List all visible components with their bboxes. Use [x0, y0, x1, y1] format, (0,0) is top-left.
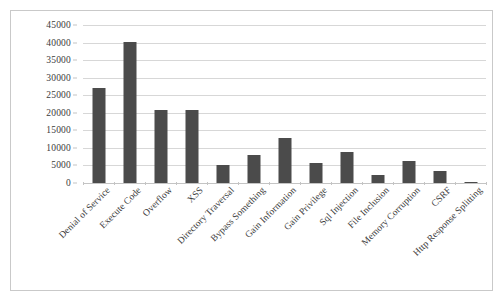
- y-axis-tick-mark: [73, 95, 77, 96]
- x-axis-tick-label: XSS: [185, 185, 205, 205]
- y-axis-tick-label: 35000: [46, 55, 71, 65]
- bar[interactable]: [278, 138, 291, 183]
- x-axis-tick-mark: [207, 182, 208, 185]
- y-axis-tick-mark: [73, 42, 77, 43]
- x-axis-tick-label: Bypass Something: [208, 185, 266, 243]
- bar-slot: [300, 25, 331, 183]
- x-axis-tick-mark: [486, 182, 487, 185]
- bar-slot: [331, 25, 362, 183]
- y-axis-tick-mark: [73, 112, 77, 113]
- x-axis-tick-label: Memory Corruption: [359, 185, 422, 248]
- y-axis-tick-label: 30000: [46, 73, 71, 83]
- x-axis-tick-mark: [269, 182, 270, 185]
- x-axis-tick-label: Denial of Service: [56, 185, 111, 240]
- y-axis-tick-label: 5000: [51, 160, 71, 170]
- bar[interactable]: [154, 110, 167, 183]
- bar[interactable]: [92, 88, 105, 183]
- bar[interactable]: [433, 171, 446, 183]
- x-axis-tick-mark: [145, 182, 146, 185]
- y-axis-tick-label: 40000: [46, 38, 71, 48]
- y-axis: 0500010000150002000025000300003500040000…: [11, 25, 77, 183]
- bar[interactable]: [247, 155, 260, 183]
- bar-slot: [114, 25, 145, 183]
- y-axis-tick-mark: [73, 183, 77, 184]
- y-axis-tick-label: 25000: [46, 90, 71, 100]
- x-axis-tick-label: CSRF: [429, 185, 453, 209]
- x-axis-tick-mark: [455, 182, 456, 185]
- bar[interactable]: [402, 161, 415, 183]
- gridline: [83, 183, 486, 184]
- bar[interactable]: [464, 182, 477, 183]
- x-axis-tick-mark: [393, 182, 394, 185]
- y-axis-tick-mark: [73, 77, 77, 78]
- x-axis-tick-mark: [300, 182, 301, 185]
- y-axis-tick-label: 0: [66, 178, 71, 188]
- bar-slot: [145, 25, 176, 183]
- bar[interactable]: [340, 152, 353, 183]
- bar-slot: [207, 25, 238, 183]
- y-axis-tick-mark: [73, 165, 77, 166]
- bar-slot: [83, 25, 114, 183]
- bar-series: [83, 25, 486, 183]
- bar[interactable]: [185, 110, 198, 183]
- bar-slot: [269, 25, 300, 183]
- y-axis-tick-label: 15000: [46, 125, 71, 135]
- bar-slot: [455, 25, 486, 183]
- x-axis-tick-label: Directory Traversal: [175, 185, 236, 246]
- bar-slot: [393, 25, 424, 183]
- x-axis-tick-mark: [424, 182, 425, 185]
- y-axis-tick-mark: [73, 147, 77, 148]
- y-axis-tick-label: 20000: [46, 108, 71, 118]
- y-axis-tick-mark: [73, 130, 77, 131]
- bar-slot: [362, 25, 393, 183]
- x-axis-tick-mark: [238, 182, 239, 185]
- x-axis-tick-mark: [114, 182, 115, 185]
- bar[interactable]: [371, 175, 384, 183]
- y-axis-tick-label: 10000: [46, 143, 71, 153]
- x-axis-tick-mark: [362, 182, 363, 185]
- chart-frame: 0500010000150002000025000300003500040000…: [10, 10, 493, 291]
- y-axis-tick-label: 45000: [46, 20, 71, 30]
- y-axis-tick-mark: [73, 60, 77, 61]
- bar[interactable]: [123, 42, 136, 183]
- x-axis-tick-mark: [331, 182, 332, 185]
- bar[interactable]: [216, 165, 229, 183]
- bar-slot: [238, 25, 269, 183]
- x-axis: Denial of ServiceExecute CodeOverflowXSS…: [83, 185, 486, 285]
- bar[interactable]: [309, 163, 322, 183]
- x-axis-tick-mark: [83, 182, 84, 185]
- bar-slot: [424, 25, 455, 183]
- x-axis-tick-mark: [176, 182, 177, 185]
- bar-slot: [176, 25, 207, 183]
- x-axis-tick-label: Overflow: [140, 185, 173, 218]
- y-axis-tick-mark: [73, 25, 77, 26]
